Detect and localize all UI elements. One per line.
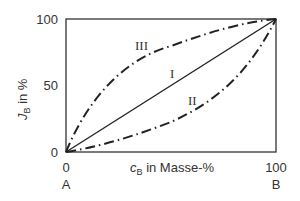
x-end-label-b: B (272, 177, 281, 192)
curve-I (66, 19, 276, 152)
y-tick-50: 50 (44, 78, 58, 93)
y-axis-label: JB in % (15, 78, 32, 121)
chart-svg: 100 50 0 0 100 A B cB in Masse-% JB in %… (0, 0, 300, 201)
curve-label-II: II (188, 93, 197, 108)
curve-label-I: I (170, 66, 174, 81)
x-end-label-a: A (62, 177, 71, 192)
x-tick-100: 100 (265, 160, 287, 175)
curve-label-III: III (135, 38, 148, 53)
x-tick-0: 0 (62, 160, 69, 175)
y-tick-100: 100 (36, 12, 58, 27)
y-tick-0: 0 (51, 145, 58, 160)
x-axis-label: cB in Masse-% (130, 160, 214, 177)
